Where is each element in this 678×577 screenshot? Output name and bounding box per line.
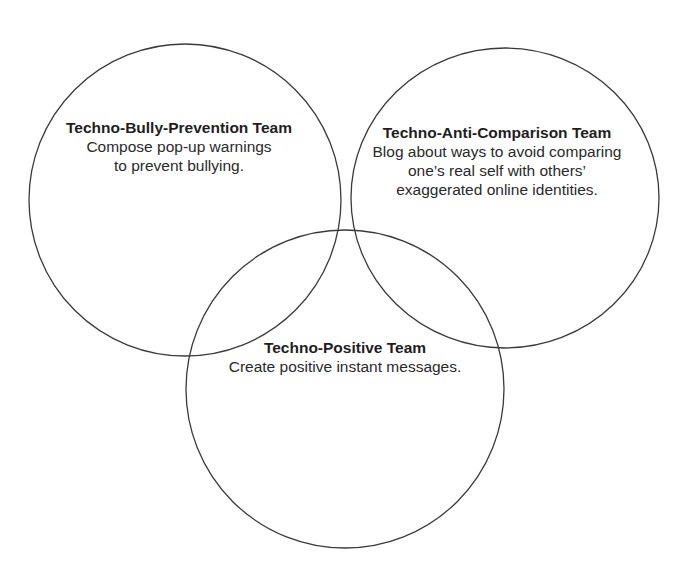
label-anti-comparison: Techno-Anti-Comparison Team Blog about w… [368,123,626,199]
circle-bully-prevention [29,44,341,356]
desc-anti-comparison: Blog about ways to avoid comparing one’s… [368,142,626,199]
title-anti-comparison: Techno-Anti-Comparison Team [368,123,626,142]
circle-positive [186,230,504,548]
venn-diagram [0,0,678,577]
label-bully-prevention: Techno-Bully-Prevention Team Compose pop… [64,118,294,175]
title-bully-prevention: Techno-Bully-Prevention Team [64,118,294,137]
desc-positive: Create positive instant messages. [220,357,470,376]
desc-bully-prevention: Compose pop-up warnings to prevent bully… [64,137,294,175]
label-positive: Techno-Positive Team Create positive ins… [220,338,470,376]
title-positive: Techno-Positive Team [220,338,470,357]
